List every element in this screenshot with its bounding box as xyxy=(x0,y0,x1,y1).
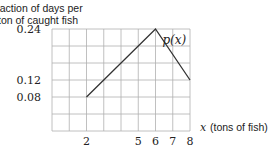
x-tick-label: 8 xyxy=(187,135,194,148)
x-tick-labels: 25678 xyxy=(83,135,194,148)
chart: fraction of days per ton of caught fish … xyxy=(0,0,272,150)
y-tick-label: 0.12 xyxy=(17,74,42,87)
y-tick-label: 0.24 xyxy=(17,23,42,36)
series-label: p(x) xyxy=(162,33,186,47)
y-tick-labels: 0.080.120.24 xyxy=(17,23,42,104)
x-axis-variable: x xyxy=(200,121,207,134)
x-tick-label: 6 xyxy=(152,135,159,148)
x-axis-title: x (tons of fish) xyxy=(200,121,268,134)
y-axis-title-line-1: fraction of days per xyxy=(0,2,83,14)
y-tick-label: 0.08 xyxy=(17,91,42,104)
x-axis-title: (tons of fish) xyxy=(210,121,268,133)
x-tick-label: 5 xyxy=(135,135,142,148)
x-tick-label: 2 xyxy=(83,135,90,148)
y-axis-title: fraction of days per ton of caught fish xyxy=(0,2,83,26)
x-tick-label: 7 xyxy=(169,135,176,148)
